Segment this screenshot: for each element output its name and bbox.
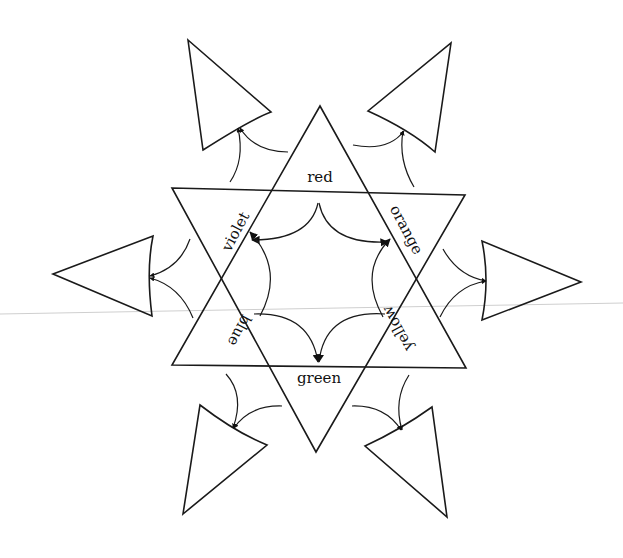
arc-outer-left-1 <box>150 239 190 276</box>
inner-arrow-arcs <box>250 203 390 362</box>
color-labels: red green violet orange blue yellow <box>217 168 427 387</box>
label-blue: blue <box>224 312 255 350</box>
scan-artifact-line <box>0 303 623 314</box>
arc-outer-ul-2 <box>240 128 288 152</box>
label-yellow: yellow <box>378 302 417 355</box>
hexagram <box>172 106 466 452</box>
color-star-diagram: red green violet orange blue yellow <box>0 0 623 558</box>
outer-triangle-left <box>53 236 153 316</box>
arc-outer-lr-1 <box>352 406 401 430</box>
label-orange: orange <box>386 202 427 258</box>
arc-outer-ur-1 <box>353 131 404 147</box>
outer-triangle-right <box>482 241 581 320</box>
arc-blue-to-violet <box>250 232 270 316</box>
arc-outer-left-2 <box>150 278 193 318</box>
outer-triangle-lower-left <box>183 405 267 514</box>
label-green: green <box>297 369 342 387</box>
arc-outer-ul-1 <box>230 128 240 182</box>
arc-outer-ll-2 <box>234 406 282 428</box>
upward-triangle <box>172 106 466 368</box>
arc-outer-ll-1 <box>226 374 238 428</box>
arc-outer-right-2 <box>440 281 486 317</box>
label-red: red <box>307 168 333 186</box>
downward-triangle <box>172 188 465 452</box>
arc-yellow-to-green <box>319 314 385 362</box>
outer-triangle-upper-right <box>368 43 451 152</box>
outer-triangle-upper-left <box>188 40 271 150</box>
diagram-svg: red green violet orange blue yellow <box>0 0 623 558</box>
arc-outer-lr-2 <box>399 375 409 430</box>
outer-triangle-lower-right <box>365 407 447 517</box>
arc-yellow-to-orange <box>372 239 390 317</box>
arc-outer-ur-2 <box>402 131 414 187</box>
arc-outer-right-1 <box>443 249 486 281</box>
